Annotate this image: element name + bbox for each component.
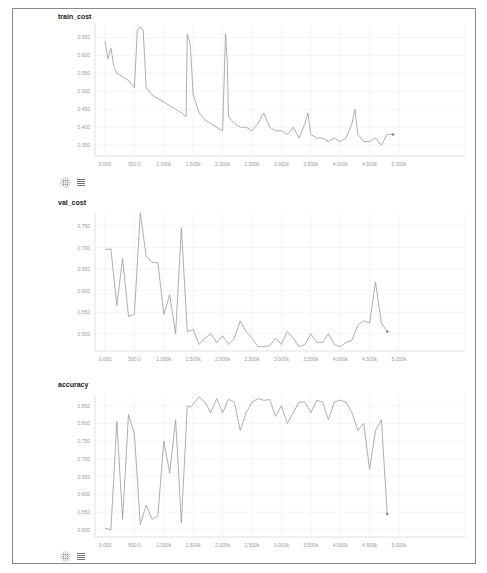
chart-panel-val-cost: val_cost 0.7500.7000.6500.6000.5500.5000… <box>13 199 475 379</box>
y-tick-label: 0.550 <box>77 70 90 76</box>
x-tick-label: 3.000k <box>274 161 290 167</box>
x-tick-label: 1.500k <box>186 161 202 167</box>
x-tick-label: 5.000k <box>391 356 407 362</box>
chart-panel-accuracy: accuracy 0.8500.8000.7500.7000.6500.6000… <box>13 381 475 565</box>
y-tick-label: 0.550 <box>77 509 90 515</box>
data-table-icon[interactable] <box>77 179 85 186</box>
line-chart[interactable]: 0.6500.6000.5500.5000.4500.4000.3500.000… <box>13 9 477 189</box>
y-tick-label: 0.650 <box>77 474 90 480</box>
line-chart[interactable]: 0.8500.8000.7500.7000.6500.6000.5500.500… <box>13 381 477 565</box>
x-tick-label: 2.000k <box>215 161 231 167</box>
x-tick-label: 2.000k <box>215 542 231 548</box>
x-tick-label: 1.000k <box>156 161 172 167</box>
chart-panel-train-cost: train_cost 0.6500.6000.5500.5000.4500.40… <box>13 9 475 199</box>
x-tick-label: 2.500k <box>244 161 260 167</box>
y-tick-label: 0.350 <box>77 142 90 148</box>
x-tick-label: 2.000k <box>215 356 231 362</box>
x-tick-label: 1.500k <box>186 356 202 362</box>
y-tick-label: 0.850 <box>77 403 90 409</box>
data-table-icon[interactable] <box>77 553 85 560</box>
x-tick-label: 0.000 <box>99 356 112 362</box>
y-tick-label: 0.450 <box>77 106 90 112</box>
x-tick-label: 500.0 <box>128 161 141 167</box>
data-series-line <box>105 397 387 530</box>
data-series-line <box>105 213 387 347</box>
x-tick-label: 4.000k <box>333 161 349 167</box>
x-tick-label: 3.500k <box>303 161 319 167</box>
y-tick-label: 0.550 <box>77 309 90 315</box>
y-tick-label: 0.400 <box>77 124 90 130</box>
y-tick-label: 0.500 <box>77 331 90 337</box>
x-tick-label: 5.000k <box>391 161 407 167</box>
x-tick-label: 3.500k <box>303 356 319 362</box>
y-tick-label: 0.750 <box>77 438 90 444</box>
last-point-marker <box>392 133 395 136</box>
x-tick-label: 2.500k <box>244 542 260 548</box>
y-tick-label: 0.700 <box>77 245 90 251</box>
y-tick-label: 0.650 <box>77 34 90 40</box>
last-point-marker <box>386 513 389 516</box>
x-tick-label: 3.500k <box>303 542 319 548</box>
y-tick-label: 0.500 <box>77 527 90 533</box>
x-tick-label: 500.0 <box>128 542 141 548</box>
y-tick-label: 0.500 <box>77 88 90 94</box>
x-tick-label: 0.000 <box>99 542 112 548</box>
line-chart[interactable]: 0.7500.7000.6500.6000.5500.5000.000500.0… <box>13 199 477 379</box>
fit-domain-icon[interactable] <box>60 551 71 562</box>
x-tick-label: 2.500k <box>244 356 260 362</box>
x-tick-label: 4.500k <box>362 356 378 362</box>
chart-frame: train_cost 0.6500.6000.5500.5000.4500.40… <box>12 8 476 564</box>
x-tick-label: 0.000 <box>99 161 112 167</box>
y-tick-label: 0.600 <box>77 491 90 497</box>
y-tick-label: 0.700 <box>77 456 90 462</box>
y-tick-label: 0.600 <box>77 288 90 294</box>
x-tick-label: 1.000k <box>156 542 172 548</box>
last-point-marker <box>386 330 389 333</box>
y-tick-label: 0.750 <box>77 223 90 229</box>
fit-domain-icon[interactable] <box>60 177 71 188</box>
y-tick-label: 0.650 <box>77 266 90 272</box>
x-tick-label: 3.000k <box>274 356 290 362</box>
y-tick-label: 0.800 <box>77 420 90 426</box>
y-tick-label: 0.600 <box>77 52 90 58</box>
x-tick-label: 4.000k <box>333 356 349 362</box>
x-tick-label: 4.000k <box>333 542 349 548</box>
x-tick-label: 1.000k <box>156 356 172 362</box>
x-tick-label: 4.500k <box>362 161 378 167</box>
x-tick-label: 4.500k <box>362 542 378 548</box>
x-tick-label: 5.000k <box>391 542 407 548</box>
x-tick-label: 500.0 <box>128 356 141 362</box>
x-tick-label: 1.500k <box>186 542 202 548</box>
x-tick-label: 3.000k <box>274 542 290 548</box>
